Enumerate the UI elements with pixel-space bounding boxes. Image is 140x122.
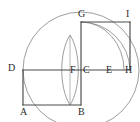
point-label-e: E — [106, 65, 112, 75]
geometry-figure: A B C D E F G H I — [0, 0, 140, 122]
point-label-c: C — [83, 65, 90, 75]
arc-g-to-e — [81, 22, 124, 70]
point-label-h: H — [125, 65, 132, 75]
geometry-canvas — [0, 0, 140, 122]
point-label-a: A — [20, 107, 27, 117]
point-label-g: G — [78, 9, 85, 19]
point-label-b: B — [78, 107, 85, 117]
point-label-d: D — [8, 63, 15, 73]
point-label-f: F — [70, 65, 76, 75]
point-label-i: I — [126, 9, 129, 19]
